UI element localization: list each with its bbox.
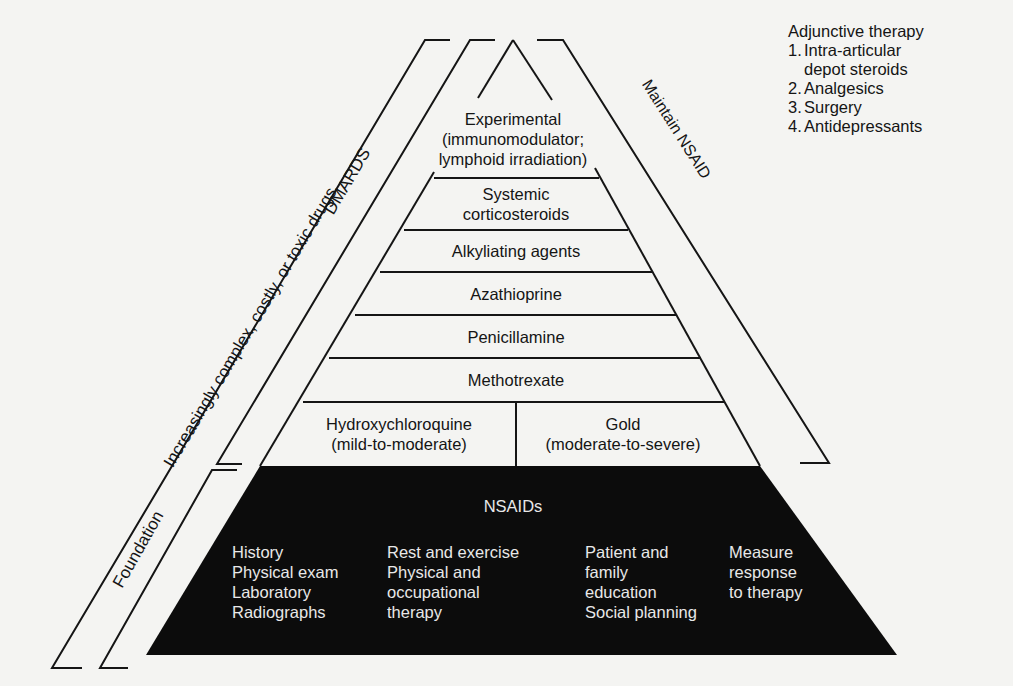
layer-methotrexate: Methotrexate [468,371,564,389]
foundation-label: Foundation [109,508,167,591]
adjunctive-item-number: 2. [788,79,804,98]
foundation-col-education: family [585,563,629,581]
layer-gold: Gold [606,415,641,433]
adjunctive-item-text: Antidepressants [804,117,922,136]
foundation-title: NSAIDs [484,497,543,515]
adjunctive-item-text: Intra-articular depot steroids [804,41,908,79]
foundation-col-measure-response: response [729,563,797,581]
dmards-label: DMARDS [320,145,374,218]
foundation-col-assessment: Physical exam [232,563,338,581]
adjunctive-item-number: 1. [788,41,804,79]
layer-penicillamine: Penicillamine [467,328,564,346]
layer-azathioprine: Azathioprine [470,285,562,303]
foundation-col-rest-exercise: Physical and [387,563,481,581]
layer-experimental: (immunomodulator; [442,130,584,148]
foundation-col-rest-exercise: Rest and exercise [387,543,519,561]
foundation-col-rest-exercise: occupational [387,583,480,601]
foundation-col-measure-response: Measure [729,543,793,561]
foundation-col-assessment: History [232,543,284,561]
foundation-col-education: Social planning [585,603,697,621]
layer-gold: (moderate-to-severe) [546,435,701,453]
foundation-col-education: education [585,583,657,601]
adjunctive-item: 4. Antidepressants [788,117,924,136]
adjunctive-item-number: 3. [788,98,804,117]
layer-systemic-corticosteroids: Systemic [483,185,550,203]
adjunctive-item: 3. Surgery [788,98,924,117]
maintain-nsaid-label: Maintain NSAID [639,76,714,181]
adjunctive-item: 2. Analgesics [788,79,924,98]
layer-alkylating-agents: Alkyliating agents [452,242,580,260]
foundation-col-assessment: Laboratory [232,583,312,601]
adjunctive-item: 1. Intra-articular depot steroids [788,41,924,79]
layer-systemic-corticosteroids: corticosteroids [463,205,569,223]
adjunctive-title: Adjunctive therapy [788,22,924,41]
layer-hydroxychloroquine: (mild-to-moderate) [331,435,467,453]
foundation-col-measure-response: to therapy [729,583,803,601]
layer-hydroxychloroquine: Hydroxychloroquine [326,415,472,433]
adjunctive-therapy-list: Adjunctive therapy 1. Intra-articular de… [788,22,924,136]
adjunctive-item-text: Surgery [804,98,862,117]
foundation-col-rest-exercise: therapy [387,603,443,621]
maintain-nsaid-bracket [537,40,829,463]
outer-bracket-label: Increasingly complex, costly, or toxic d… [160,184,341,470]
foundation-col-assessment: Radiographs [232,603,326,621]
adjunctive-item-text: Analgesics [804,79,884,98]
layer-experimental: Experimental [465,110,561,128]
adjunctive-item-number: 4. [788,117,804,136]
rheumatoid-arthritis-treatment-pyramid: Increasingly complex, costly, or toxic d… [0,0,1013,686]
layer-experimental: lymphoid irradiation) [439,150,588,168]
foundation-col-education: Patient and [585,543,668,561]
